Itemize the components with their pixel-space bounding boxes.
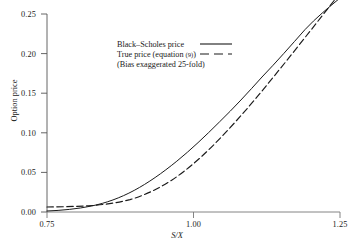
series-black-scholes-price bbox=[47, 0, 340, 211]
axis-lines bbox=[47, 14, 340, 212]
ytick-label-5: 0.00 bbox=[10, 208, 36, 217]
legend-entry-black-scholes: Black–Scholes price bbox=[117, 40, 184, 49]
xtick-label-0: 0.75 bbox=[27, 220, 67, 229]
series-true-price bbox=[47, 0, 340, 207]
x-axis-label: S/X bbox=[155, 231, 199, 240]
y-axis-label: Option price bbox=[10, 61, 19, 141]
legend-label-bias-note: (Bias exaggerated 25-fold) bbox=[117, 60, 205, 69]
legend-label-black-scholes: Black–Scholes price bbox=[117, 40, 184, 49]
figure-option-price-chart: 0.25 0.20 0.15 0.10 0.05 0.00 0.75 1.00 … bbox=[0, 0, 354, 249]
ytick-label-1: 0.20 bbox=[10, 50, 36, 59]
legend-entry-true-price: True price (equation (9)) bbox=[117, 50, 196, 59]
legend-note-bias: (Bias exaggerated 25-fold) bbox=[117, 60, 205, 69]
x-axis-ticks bbox=[47, 212, 340, 218]
legend-line-samples bbox=[200, 44, 232, 54]
chart-canvas bbox=[0, 0, 354, 249]
xtick-label-1: 1.00 bbox=[174, 220, 214, 229]
data-series-group bbox=[47, 0, 340, 211]
xtick-label-2: 1.25 bbox=[320, 220, 354, 229]
legend-label-true-price-prefix: True price (equation bbox=[117, 50, 186, 59]
ytick-label-4: 0.05 bbox=[10, 168, 36, 177]
y-axis-ticks bbox=[41, 14, 47, 212]
ytick-label-0: 0.25 bbox=[10, 10, 36, 19]
legend-label-true-price-suffix: ) bbox=[193, 50, 196, 59]
